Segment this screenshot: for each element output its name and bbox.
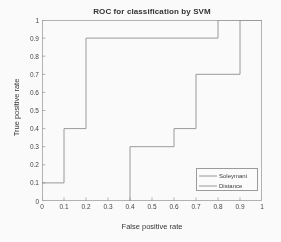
x-tick-label-5: 0.5 [147,203,156,210]
legend-item-soleymani[interactable]: Soleymani [199,171,247,181]
x-axis-tick-labels: 00.10.20.30.40.50.60.70.80.91 [42,203,262,215]
y-tick-label-3: 0.3 [30,143,39,150]
x-axis-label: False positive rate [42,222,262,231]
y-tick-label-8: 0.8 [30,53,39,60]
legend[interactable]: SoleymaniDistance [196,168,258,191]
y-tick-label-5: 0.5 [30,107,39,114]
y-tick-label-4: 0.4 [30,125,39,132]
figure-canvas: ROC for classification by SVM True posit… [0,0,281,242]
y-tick-label-7: 0.7 [30,71,39,78]
legend-line-sample-icon [199,173,217,179]
x-tick-label-3: 0.3 [103,203,112,210]
x-tick-label-8: 0.8 [213,203,222,210]
x-tick-label-1: 0.1 [59,203,68,210]
y-tick-label-6: 0.6 [30,89,39,96]
x-tick-label-6: 0.6 [169,203,178,210]
x-tick-label-4: 0.4 [125,203,134,210]
y-tick-label-0: 0 [35,198,39,205]
y-tick-label-2: 0.2 [30,161,39,168]
x-tick-label-10: 1 [260,203,264,210]
legend-label: Distance [219,183,242,189]
y-tick-label-9: 0.9 [30,35,39,42]
x-tick-label-7: 0.7 [191,203,200,210]
legend-label: Soleymani [219,173,247,179]
x-tick-label-2: 0.2 [81,203,90,210]
x-tick-label-0: 0 [40,203,44,210]
legend-line-sample-icon [199,183,217,189]
series-line-soleymani [42,20,262,183]
y-tick-label-10: 1 [35,17,39,24]
x-tick-label-9: 0.9 [235,203,244,210]
y-axis-tick-labels: 00.10.20.30.40.50.60.70.80.91 [16,20,39,201]
legend-item-distance[interactable]: Distance [199,181,242,191]
page-title: ROC for classification by SVM [42,7,262,16]
y-tick-label-1: 0.1 [30,179,39,186]
